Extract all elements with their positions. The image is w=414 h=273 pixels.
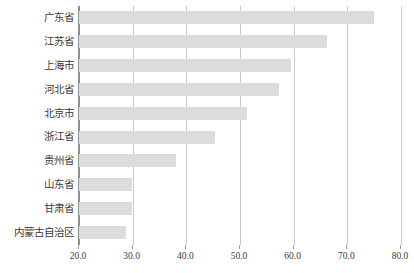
bar-row	[79, 197, 400, 221]
category-label-甘肃省: 甘肃省	[0, 203, 74, 215]
category-label-北京市: 北京市	[0, 108, 74, 120]
bar-row	[79, 30, 400, 54]
plot-area	[78, 6, 400, 245]
bar-北京市[interactable]	[79, 107, 247, 120]
tick-mark-30.0	[132, 245, 133, 249]
bar-row	[79, 221, 400, 245]
tick-mark-50.0	[239, 245, 240, 249]
bar-row	[79, 102, 400, 126]
tick-mark-70.0	[346, 245, 347, 249]
bar-row	[79, 126, 400, 150]
bars-layer	[79, 6, 400, 245]
category-axis-labels: 广东省江苏省上海市河北省北京市浙江省贵州省山东省甘肃省内蒙古自治区	[0, 6, 74, 245]
tick-mark-40.0	[185, 245, 186, 249]
category-label-江苏省: 江苏省	[0, 36, 74, 48]
bar-row	[79, 173, 400, 197]
category-label-广东省: 广东省	[0, 12, 74, 24]
category-label-浙江省: 浙江省	[0, 131, 74, 143]
bar-甘肃省[interactable]	[79, 202, 132, 215]
tick-mark-20.0	[78, 245, 79, 249]
bar-广东省[interactable]	[79, 11, 374, 24]
bar-浙江省[interactable]	[79, 131, 215, 144]
bar-row	[79, 149, 400, 173]
bar-内蒙古自治区[interactable]	[79, 226, 126, 239]
category-label-上海市: 上海市	[0, 60, 74, 72]
tick-label-80.0: 80.0	[392, 251, 409, 262]
bar-row	[79, 6, 400, 30]
bar-row	[79, 54, 400, 78]
bar-河北省[interactable]	[79, 83, 279, 96]
tick-label-70.0: 70.0	[338, 251, 355, 262]
tick-label-40.0: 40.0	[177, 251, 194, 262]
category-label-河北省: 河北省	[0, 84, 74, 96]
bar-江苏省[interactable]	[79, 35, 327, 48]
tick-label-60.0: 60.0	[284, 251, 301, 262]
bar-山东省[interactable]	[79, 178, 132, 191]
bar-上海市[interactable]	[79, 59, 291, 72]
horizontal-bar-chart: 广东省江苏省上海市河北省北京市浙江省贵州省山东省甘肃省内蒙古自治区 20.030…	[0, 0, 414, 273]
tick-mark-80.0	[400, 245, 401, 249]
category-label-内蒙古自治区: 内蒙古自治区	[0, 227, 74, 239]
tick-label-20.0: 20.0	[70, 251, 87, 262]
value-axis: 20.030.040.050.060.070.080.0	[78, 245, 400, 273]
gridline-80.0	[401, 6, 402, 245]
tick-mark-60.0	[293, 245, 294, 249]
bar-row	[79, 78, 400, 102]
tick-label-30.0: 30.0	[123, 251, 140, 262]
bar-贵州省[interactable]	[79, 154, 176, 167]
category-label-山东省: 山东省	[0, 179, 74, 191]
tick-label-50.0: 50.0	[231, 251, 248, 262]
category-label-贵州省: 贵州省	[0, 155, 74, 167]
